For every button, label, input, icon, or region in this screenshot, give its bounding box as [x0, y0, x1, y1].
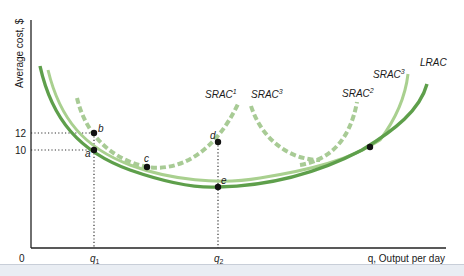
label-lrac: LRAC: [420, 57, 447, 68]
label-a: a: [85, 148, 91, 159]
point-c: [144, 164, 150, 170]
label-c: c: [144, 153, 149, 164]
y-tick-10: 10: [15, 145, 27, 156]
label-d: d: [210, 130, 216, 141]
point-tangency: [367, 144, 373, 150]
label-b: b: [98, 123, 104, 134]
y-axis-title: Average cost, $: [14, 18, 25, 88]
label-srac2: SRAC2: [342, 87, 374, 99]
label-srac3-mid: SRAC3: [251, 88, 283, 100]
x-axis-title: q, Output per day: [368, 253, 445, 264]
label-srac3-right: SRAC3: [373, 68, 405, 80]
srac3-dashed-curve: [251, 106, 320, 160]
label-srac1: SRAC1: [205, 88, 237, 100]
y-tick-12: 12: [15, 128, 27, 139]
point-a: [91, 147, 97, 153]
point-d: [215, 139, 221, 145]
bottom-border: [0, 264, 464, 276]
origin-label: 0: [19, 253, 25, 264]
label-e: e: [221, 175, 227, 186]
point-b: [91, 130, 97, 136]
guide-lines: [31, 133, 218, 248]
